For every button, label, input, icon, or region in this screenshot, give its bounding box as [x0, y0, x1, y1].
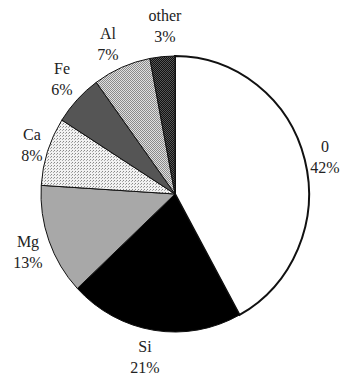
slice-label-name: Mg — [13, 231, 42, 252]
slice-label-name: other — [149, 5, 182, 26]
slice-label-name: Fe — [51, 58, 72, 79]
slice-label-name: Al — [97, 23, 118, 44]
slice-label-percent: 42% — [310, 157, 339, 178]
slice-label-ca: Ca8% — [21, 124, 42, 166]
slice-label-percent: 8% — [21, 145, 42, 166]
slice-label-fe: Fe6% — [51, 58, 72, 100]
slice-label-percent: 3% — [149, 26, 182, 47]
slice-label-0: 042% — [310, 136, 339, 178]
slice-label-percent: 6% — [51, 79, 72, 100]
slice-label-mg: Mg13% — [13, 231, 42, 273]
slice-label-name: 0 — [310, 136, 339, 157]
slice-label-percent: 7% — [97, 44, 118, 65]
slice-label-other: other3% — [149, 5, 182, 47]
slice-label-si: Si21% — [130, 336, 159, 378]
slice-label-percent: 13% — [13, 252, 42, 273]
slice-label-percent: 21% — [130, 357, 159, 378]
slice-label-name: Si — [130, 336, 159, 357]
slice-label-al: Al7% — [97, 23, 118, 65]
slice-label-name: Ca — [21, 124, 42, 145]
pie-slices — [41, 56, 309, 332]
